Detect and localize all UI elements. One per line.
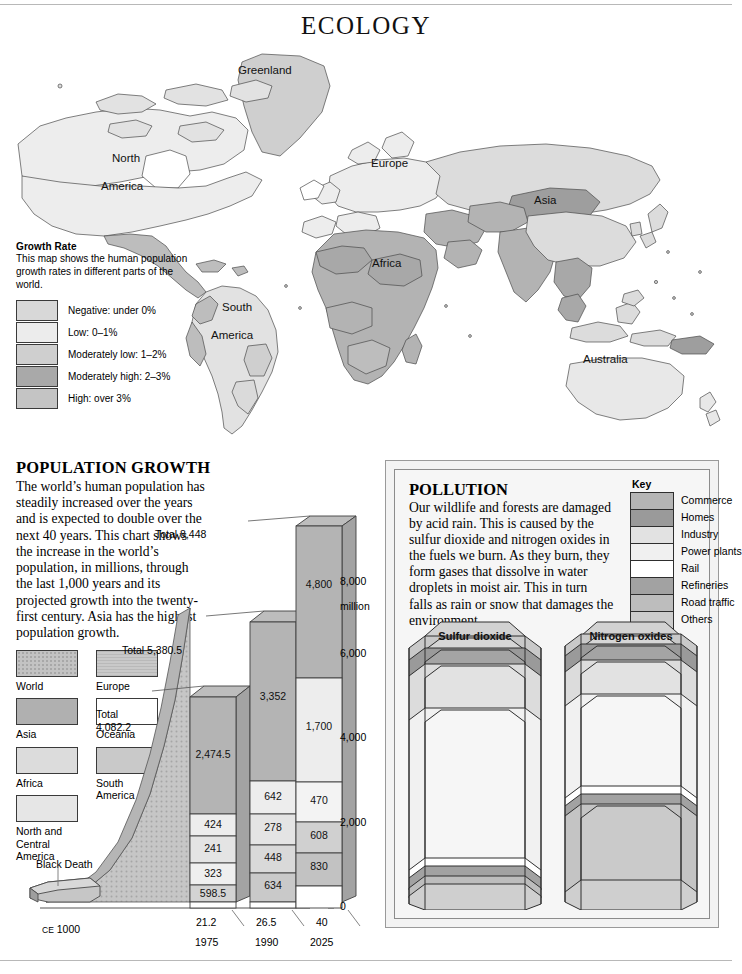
population-chart-svg [0, 450, 390, 960]
key-item-power-plants: Power plants [631, 544, 673, 561]
x-axis-year-1975: 1975 [195, 936, 218, 949]
segment-value-1975-africa: 598.5 [188, 887, 238, 899]
pollution-panel-inner: POLLUTION Our wildlife and forests are d… [394, 469, 710, 919]
map-label-south: South [222, 300, 252, 314]
y-axis-label-8000: 8,000 million [340, 562, 370, 612]
cylinder-nitrogen-oxides: Nitrogen oxides [561, 620, 701, 910]
bar-total-1990: Total 5,380.5 [122, 644, 182, 657]
pollution-key: Key Commerce Homes Industry Power plants [630, 478, 702, 630]
cylinder-title-sulfur-dioxide: Sulfur dioxide [405, 630, 545, 642]
y-axis-label-0: 0 [340, 900, 346, 913]
segment-value-1990-asia: 3,352 [250, 690, 296, 702]
x-axis-year-1990: 1990 [255, 936, 278, 949]
segment-value-2025-south-america: 470 [296, 794, 342, 806]
y-axis-label-6000: 6,000 [340, 647, 366, 660]
segment-value-1975-asia: 2,474.5 [190, 748, 236, 760]
x-axis-year-2025: 2025 [310, 936, 333, 949]
segment-value-2025-europe: 1,700 [296, 720, 342, 732]
growth-rate-legend-description: This map shows the human population grow… [16, 253, 191, 291]
cylinder-title-nitrogen-oxides: Nitrogen oxides [561, 630, 701, 642]
key-label-road-traffic: Road traffic [681, 596, 735, 608]
y-axis-label-2000: 2,000 [340, 816, 366, 829]
x-axis-growth-1975: 21.2 [196, 916, 216, 929]
segment-value-1990-africa: 634 [250, 879, 296, 891]
pollution-panel: POLLUTION Our wildlife and forests are d… [385, 460, 719, 928]
key-item-rail: Rail [631, 561, 673, 578]
pollution-heading: POLLUTION [409, 480, 508, 500]
growth-rate-legend: Growth Rate This map shows the human pop… [16, 241, 191, 409]
segment-value-2025-africa: 830 [296, 860, 342, 872]
legend-item-moderately-low: Moderately low: 1–2% [16, 343, 191, 365]
key-label-homes: Homes [681, 511, 714, 523]
y-axis-label-4000: 4,000 [340, 731, 366, 744]
legend-swatch-negative [16, 300, 58, 321]
map-label-north: North [112, 151, 140, 165]
segment-value-1990-north-central-america: 448 [250, 851, 296, 863]
segment-value-1975-south-america: 241 [190, 842, 236, 854]
key-label-rail: Rail [681, 562, 699, 574]
key-item-homes: Homes [631, 510, 673, 527]
legend-item-negative: Negative: under 0% [16, 299, 191, 321]
map-label-greenland: Greenland [238, 63, 292, 77]
bottom-divider [0, 960, 732, 961]
segment-value-1990-europe: 642 [250, 790, 296, 802]
segment-value-2025-asia: 4,800 [296, 578, 342, 590]
x-axis-growth-2025: 40 [316, 916, 328, 929]
pollution-body-text: Our wildlife and forests are damaged by … [409, 500, 614, 629]
segment-value-2025-north-central-america: 608 [296, 829, 342, 841]
x-axis-growth-1990: 26.5 [256, 916, 276, 929]
key-label-power-plants: Power plants [681, 545, 742, 557]
cylinder-sulfur-dioxide-svg [405, 620, 545, 910]
legend-swatch-high [16, 388, 58, 409]
key-item-refineries: Refineries [631, 578, 673, 595]
pollution-key-rows: Commerce Homes Industry Power plants Rai… [630, 492, 674, 630]
top-divider [0, 4, 732, 5]
legend-label-low: Low: 0–1% [68, 327, 117, 338]
y-tick-8000: 8,000 [340, 575, 366, 587]
map-label-asia: Asia [534, 193, 556, 207]
segment-value-1975-europe: 424 [190, 818, 236, 830]
page-title: ECOLOGY [0, 12, 732, 40]
map-label-europe: Europe [371, 156, 408, 170]
map-label-america-north: America [101, 179, 143, 193]
key-item-industry: Industry [631, 527, 673, 544]
growth-rate-legend-rows: Negative: under 0% Low: 0–1% Moderately … [16, 299, 191, 409]
legend-item-high: High: over 3% [16, 387, 191, 409]
key-label-industry: Industry [681, 528, 718, 540]
cylinder-sulfur-dioxide: Sulfur dioxide [405, 620, 545, 910]
key-item-commerce: Commerce [631, 493, 673, 510]
cylinder-nitrogen-oxides-svg [561, 620, 701, 910]
map-label-australia: Australia [583, 352, 628, 366]
legend-label-high: High: over 3% [68, 393, 131, 404]
legend-item-low: Low: 0–1% [16, 321, 191, 343]
segment-value-1975-north-central-america: 323 [190, 867, 236, 879]
bar-total-1975: Total 4,082.2 [96, 708, 131, 733]
legend-label-moderately-high: Moderately high: 2–3% [68, 371, 170, 382]
legend-swatch-moderately-low [16, 344, 58, 365]
legend-item-moderately-high: Moderately high: 2–3% [16, 365, 191, 387]
legend-swatch-low [16, 322, 58, 343]
growth-rate-legend-title: Growth Rate [16, 241, 191, 252]
map-label-america-south: America [211, 328, 253, 342]
population-chart: Total 4,082.2 Total 5,380.5 Total 8,448 … [0, 450, 390, 960]
segment-value-1990-south-america: 278 [250, 821, 296, 833]
y-axis-unit: million [340, 600, 370, 612]
bar-total-2025: Total 8,448 [155, 528, 206, 541]
key-item-road-traffic: Road traffic [631, 595, 673, 612]
map-label-africa: Africa [372, 256, 401, 270]
legend-label-negative: Negative: under 0% [68, 305, 156, 316]
legend-label-moderately-low: Moderately low: 1–2% [68, 349, 166, 360]
key-label-commerce: Commerce [681, 494, 732, 506]
legend-swatch-moderately-high [16, 366, 58, 387]
key-label-refineries: Refineries [681, 579, 728, 591]
pollution-key-title: Key [630, 478, 702, 490]
